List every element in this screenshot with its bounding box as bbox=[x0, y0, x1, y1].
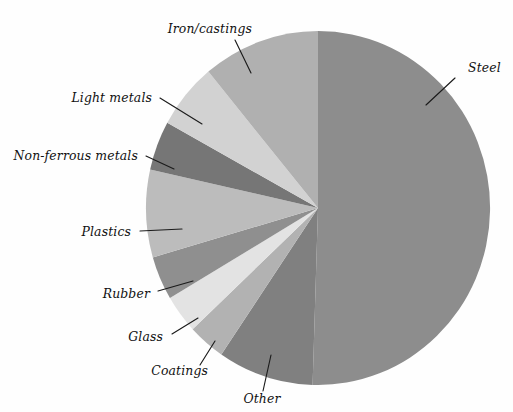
pie-slices-group bbox=[146, 31, 490, 385]
slice-label-glass: Glass bbox=[128, 329, 163, 344]
slice-label-coatings: Coatings bbox=[151, 363, 208, 378]
slice-label-rubber: Rubber bbox=[102, 286, 151, 301]
slice-label-non-ferrous-metals: Non-ferrous metals bbox=[13, 148, 138, 163]
slice-label-plastics: Plastics bbox=[81, 224, 132, 239]
pie-chart-figure: SteelOtherCoatingsGlassRubberPlasticsNon… bbox=[0, 0, 513, 412]
slice-label-iron-castings: Iron/castings bbox=[167, 21, 252, 36]
slice-label-other: Other bbox=[243, 391, 281, 406]
slice-label-light-metals: Light metals bbox=[70, 90, 152, 105]
pie-chart-canvas: SteelOtherCoatingsGlassRubberPlasticsNon… bbox=[0, 0, 513, 412]
slice-label-steel: Steel bbox=[468, 60, 501, 75]
